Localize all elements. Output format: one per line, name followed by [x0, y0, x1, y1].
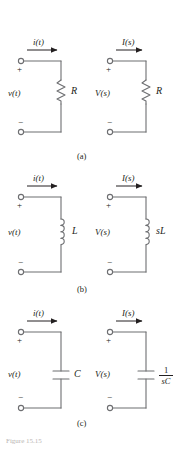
voltage-label-c-s: V(s)	[95, 370, 110, 379]
current-label-b-time: i(t)	[33, 174, 44, 183]
plus-sign-a-time: +	[17, 65, 22, 74]
minus-sign-c-time: −	[18, 393, 23, 402]
voltage-label-c-time: v(t)	[8, 370, 21, 379]
subcaption-a: (a)	[77, 152, 86, 161]
minus-sign-b-s: −	[107, 258, 112, 267]
minus-sign-a-s: −	[107, 118, 112, 127]
plus-sign-b-time: +	[17, 201, 22, 210]
plus-sign-c-time: +	[17, 336, 22, 345]
voltage-label-b-time: v(t)	[8, 228, 21, 237]
element-label-a-s-resistor: R	[156, 86, 162, 96]
plus-sign-a-s: +	[106, 65, 111, 74]
current-label-a-s: I(s)	[122, 38, 135, 47]
plus-sign-c-s: +	[106, 336, 111, 345]
element-label-a-time-resistor: R	[71, 86, 77, 96]
minus-sign-c-s: −	[107, 393, 112, 402]
voltage-label-b-s: V(s)	[95, 228, 110, 237]
circuit-figure: i(t) + v(t) − R I(s) + V(s) − R (a) i(t)…	[0, 0, 178, 451]
subcaption-b: (b)	[77, 285, 87, 294]
current-label-a-time: i(t)	[33, 38, 44, 47]
minus-sign-b-time: −	[18, 258, 23, 267]
plus-sign-b-s: +	[106, 201, 111, 210]
impedance-numerator: 1	[159, 366, 173, 375]
element-label-b-s-inductor: sL	[156, 226, 165, 236]
figure-caption: Figure 15.15	[6, 437, 42, 445]
subcaption-c: (c)	[77, 419, 86, 428]
element-label-c-time-capacitor: C	[74, 369, 81, 379]
element-label-c-s-impedance: 1 sC	[159, 366, 173, 386]
current-label-c-time: i(t)	[33, 309, 44, 318]
impedance-denominator: sC	[159, 377, 173, 386]
voltage-label-a-time: v(t)	[8, 89, 21, 98]
voltage-label-a-s: V(s)	[95, 89, 110, 98]
element-label-b-time-inductor: L	[72, 226, 78, 236]
current-label-b-s: I(s)	[122, 174, 135, 183]
circuit-drawing	[0, 0, 178, 451]
current-label-c-s: I(s)	[122, 309, 135, 318]
minus-sign-a-time: −	[18, 118, 23, 127]
